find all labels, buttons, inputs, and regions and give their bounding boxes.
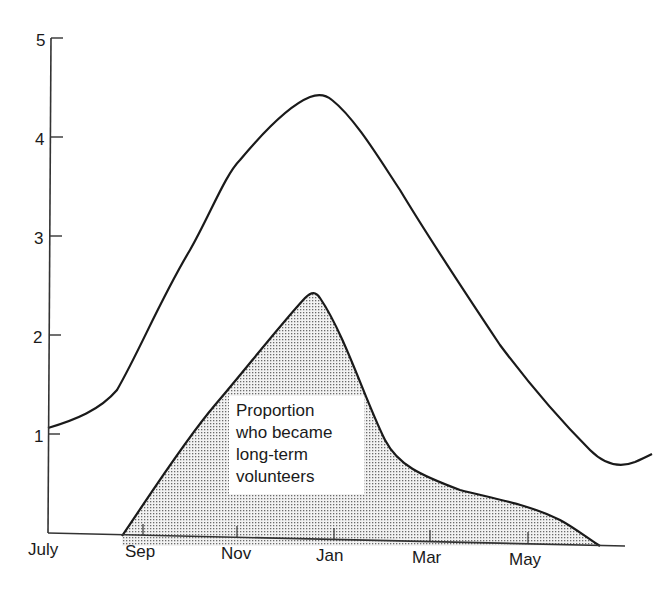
x-label-mar: Mar	[412, 548, 442, 567]
annotation-line-1: Proportion	[236, 401, 314, 420]
y-label-4: 4	[35, 130, 44, 149]
annotation-line-4: volunteers	[236, 467, 314, 486]
annotation-line-3: long-term	[236, 445, 308, 464]
chart: 5 4 3 2 1 July Sep Nov Jan Mar May Propo…	[0, 0, 661, 594]
y-label-2: 2	[33, 328, 42, 347]
y-label-1: 1	[34, 427, 43, 446]
annotation-line-2: who became	[235, 423, 332, 442]
y-axis	[48, 38, 51, 533]
x-label-sep: Sep	[125, 542, 155, 561]
y-label-5: 5	[36, 31, 45, 50]
x-label-jan: Jan	[316, 546, 343, 565]
x-label-may: May	[509, 550, 542, 569]
x-label-nov: Nov	[221, 544, 252, 563]
y-label-3: 3	[34, 229, 43, 248]
x-label-july: July	[28, 540, 59, 559]
